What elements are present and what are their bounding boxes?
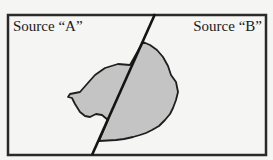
source-b-label: Source “B” [193,18,262,34]
source-diagram: Source “A” Source “B” [0,0,273,160]
source-a-label: Source “A” [13,18,83,34]
